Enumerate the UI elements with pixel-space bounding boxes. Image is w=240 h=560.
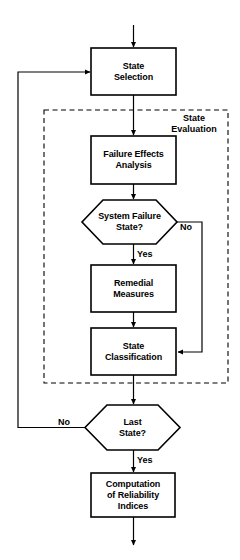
edge-last-state-no-to-state-selection <box>18 72 90 428</box>
node-label-computation-of-reliability-indices: Computation of Reliability Indices <box>91 473 175 517</box>
node-label-last-state: Last State? <box>85 405 180 450</box>
node-label-remedial-measures: Remedial Measures <box>91 265 176 312</box>
node-label-state-classification: State Classification <box>91 328 176 375</box>
edge-system-failure-state-no-to-state-classification <box>177 222 202 352</box>
edge-label-system-failure-yes: Yes <box>137 249 153 259</box>
node-label-system-failure-state: System Failure State? <box>82 200 177 244</box>
node-label-failure-effects-analysis: Failure Effects Analysis <box>91 136 176 184</box>
edge-label-system-failure-no: No <box>180 222 192 232</box>
group-label-state-evaluation: State Evaluation <box>163 113 225 135</box>
flowchart-diagram: Remedial Measures --> right, down, into … <box>0 0 240 560</box>
edge-label-last-state-yes: Yes <box>137 455 153 465</box>
edge-label-last-state-no: No <box>58 417 70 427</box>
node-label-state-selection: State Selection <box>91 48 176 95</box>
